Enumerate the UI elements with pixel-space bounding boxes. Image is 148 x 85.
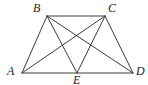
- geometry-figure: A B C D E: [0, 0, 148, 85]
- segment-CE: [77, 16, 105, 73]
- segment-CD: [105, 16, 133, 73]
- segment-BD: [47, 16, 133, 73]
- segment-BE: [47, 16, 77, 73]
- vertex-label-b: B: [33, 2, 40, 14]
- segment-layer: [22, 16, 133, 73]
- vertex-label-d: D: [136, 65, 145, 77]
- vertex-label-c: C: [108, 2, 116, 14]
- vertex-label-a: A: [7, 65, 14, 77]
- vertex-label-e: E: [73, 74, 80, 85]
